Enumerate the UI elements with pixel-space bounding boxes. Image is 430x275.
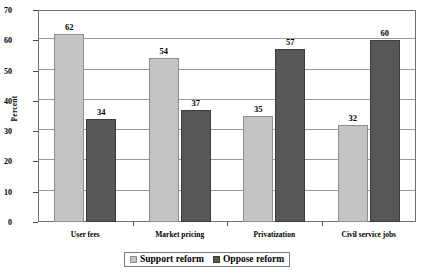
bar-value-label: 37	[192, 98, 201, 108]
legend-label: Support reform	[140, 254, 204, 264]
x-tick-mark	[322, 222, 323, 226]
y-tick-label: 30	[0, 127, 12, 136]
bar-value-label: 54	[160, 46, 169, 56]
bar-support	[338, 125, 368, 222]
bar-support	[149, 58, 179, 222]
y-tick-label: 10	[0, 187, 12, 196]
bar-chart: Percent 010203040506070 6234543735573260…	[0, 0, 430, 275]
y-tick-label: 20	[0, 157, 12, 166]
bar-support	[243, 116, 273, 222]
y-tick-label: 0	[0, 218, 12, 227]
bar-support	[54, 34, 84, 222]
legend-label: Oppose reform	[223, 254, 284, 264]
chart-legend: Support reformOppose reform	[124, 252, 290, 267]
legend-item: Support reform	[130, 254, 204, 264]
x-tick-label: Market pricing	[155, 230, 204, 239]
y-tick-mark	[33, 222, 38, 223]
bar-oppose	[275, 49, 305, 222]
y-tick-label: 50	[0, 66, 12, 75]
y-tick-label: 40	[0, 96, 12, 105]
legend-swatch-icon	[130, 256, 137, 263]
legend-swatch-icon	[213, 256, 220, 263]
bar-oppose	[370, 40, 400, 222]
x-tick-mark	[227, 222, 228, 226]
bar-value-label: 62	[65, 22, 74, 32]
bar-value-label: 32	[349, 113, 358, 123]
y-tick-label: 60	[0, 36, 12, 45]
y-tick-label: 70	[0, 6, 12, 15]
bars-layer: 6234543735573260	[38, 10, 416, 222]
x-tick-label: Privatization	[253, 230, 295, 239]
legend-item: Oppose reform	[213, 254, 284, 264]
x-tick-label: User fees	[71, 230, 100, 239]
x-tick-label: Civil service jobs	[341, 230, 396, 239]
bar-value-label: 60	[381, 28, 390, 38]
bar-value-label: 57	[286, 37, 295, 47]
bar-oppose	[86, 119, 116, 222]
bar-oppose	[181, 110, 211, 222]
x-tick-mark	[133, 222, 134, 226]
bar-value-label: 35	[254, 104, 263, 114]
bar-value-label: 34	[97, 107, 106, 117]
